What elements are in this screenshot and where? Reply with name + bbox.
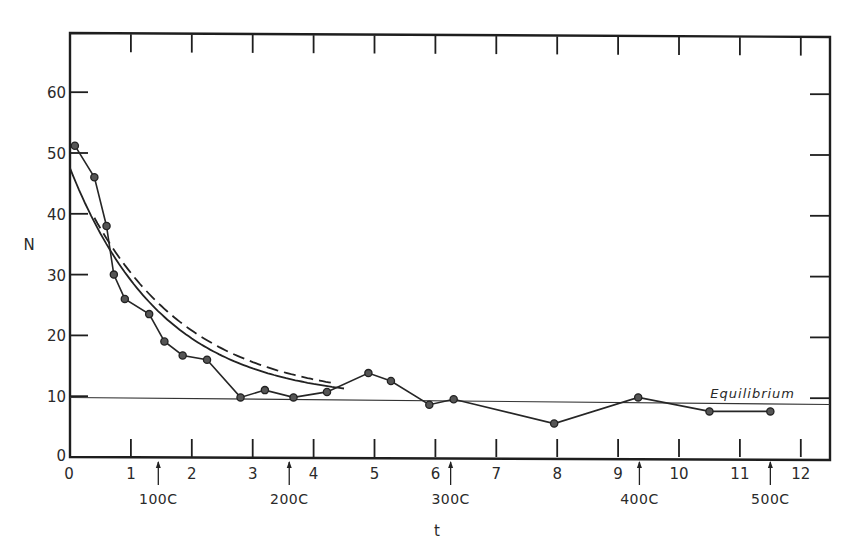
y-tick-label: 30 xyxy=(47,267,66,285)
theoretical-curve-solid xyxy=(70,168,344,388)
x-tick-label: 12 xyxy=(791,465,810,483)
data-point xyxy=(103,222,110,229)
data-point xyxy=(179,352,186,359)
data-point xyxy=(387,377,394,384)
annotation-arrowhead xyxy=(637,461,642,468)
annotation-label: 200C xyxy=(270,491,309,507)
data-point xyxy=(706,408,713,415)
x-tick-label: 6 xyxy=(431,465,441,483)
x-tick-label: 11 xyxy=(730,465,749,483)
equilibrium-label: Equilibrium xyxy=(710,386,795,401)
x-tick-label: 3 xyxy=(248,465,258,483)
chart: 01234567891011120102030405060 Equilibriu… xyxy=(0,0,860,559)
y-axis-label: N xyxy=(23,236,34,254)
data-point xyxy=(261,387,268,394)
x-tick-label: 4 xyxy=(309,465,319,483)
data-point xyxy=(767,408,774,415)
y-tick-label: 60 xyxy=(47,84,66,102)
data-point xyxy=(161,338,168,345)
x-tick-label: 10 xyxy=(669,465,688,483)
annotation-arrowhead xyxy=(768,461,773,468)
tick-labels: 01234567891011120102030405060 xyxy=(47,84,810,483)
x-tick-label: 5 xyxy=(370,465,380,483)
data-point xyxy=(203,356,210,363)
data-point xyxy=(426,401,433,408)
data-point xyxy=(71,142,78,149)
data-point xyxy=(635,394,642,401)
y-tick-label: 20 xyxy=(47,327,66,345)
x-tick-label: 7 xyxy=(492,465,502,483)
annotations: 100C200C300C400C500C xyxy=(139,461,790,507)
data-point xyxy=(121,295,128,302)
observed-line xyxy=(75,146,771,424)
annotation-label: 500C xyxy=(751,491,790,507)
data-point xyxy=(110,271,117,278)
data-point xyxy=(323,388,330,395)
theoretical-curves xyxy=(70,168,344,388)
x-tick-label: 2 xyxy=(187,465,197,483)
annotation-label: 400C xyxy=(620,491,659,507)
x-tick-label: 9 xyxy=(613,465,623,483)
data-point xyxy=(146,311,153,318)
x-tick-label: 1 xyxy=(126,465,136,483)
annotation-arrowhead xyxy=(448,461,453,468)
annotation-arrowhead xyxy=(156,461,161,468)
annotation-arrowhead xyxy=(287,461,292,468)
equilibrium-group: Equilibrium xyxy=(70,386,830,404)
annotation-label: 300C xyxy=(431,491,470,507)
x-tick-label: 0 xyxy=(64,465,74,483)
y-tick-label: 50 xyxy=(47,145,66,163)
y-tick-label: 40 xyxy=(47,206,66,224)
data-point xyxy=(91,174,98,181)
observed-series xyxy=(71,142,774,427)
theoretical-curve-dashed xyxy=(94,218,332,383)
y-tick-label: 10 xyxy=(47,388,66,406)
data-point xyxy=(290,394,297,401)
y-tick-label: 0 xyxy=(56,447,66,465)
data-point xyxy=(450,396,457,403)
x-tick-label: 8 xyxy=(552,465,562,483)
data-point xyxy=(237,394,244,401)
data-point xyxy=(551,420,558,427)
annotation-label: 100C xyxy=(139,491,178,507)
data-point xyxy=(365,369,372,376)
x-axis-label: t xyxy=(434,522,440,540)
